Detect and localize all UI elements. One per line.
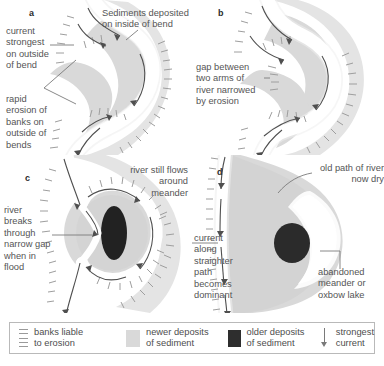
rapid-erosion-label: rapid erosion of banks on outside of ben… bbox=[6, 94, 60, 151]
legend-label-older: older deposits of sediment bbox=[247, 327, 305, 349]
panel-letter-a: a bbox=[29, 8, 34, 18]
river-still-flows-label: river still flows around meander bbox=[96, 165, 188, 199]
current-strongest-label: current strongest on outside of bend bbox=[6, 26, 54, 72]
legend-item-newer-deposits: newer deposits of sediment bbox=[117, 323, 218, 353]
panel-letter-c: c bbox=[25, 173, 30, 183]
abandoned-meander-label: abandoned meander or oxbow lake bbox=[318, 267, 382, 301]
panel-letter-b: b bbox=[218, 8, 224, 18]
dashes-icon bbox=[19, 329, 28, 347]
sediments-deposited-label: Sediments deposited on inside of bend bbox=[102, 8, 192, 31]
legend-item-banks-liable-to-erosion: banks liable to erosion bbox=[10, 323, 117, 353]
legend-label-newer: newer deposits of sediment bbox=[146, 327, 209, 349]
panel-b: b gap between two arms of river narrowed… bbox=[192, 0, 384, 155]
panel-d: d old path of river now dry current alon… bbox=[192, 155, 384, 313]
panel-c: c river still flows around meander river… bbox=[0, 155, 192, 313]
legend: banks liable to erosion newer deposits o… bbox=[9, 322, 375, 354]
down-arrow-icon bbox=[320, 328, 330, 348]
panel-a: a current strongest on outside of bend S… bbox=[0, 0, 192, 155]
panel-letter-d: d bbox=[217, 167, 223, 177]
river-breaks-through-label: river breaks through narrow gap when in … bbox=[4, 205, 60, 273]
legend-label-current: strongest current bbox=[336, 327, 374, 349]
light-grey-square-icon bbox=[126, 330, 140, 347]
current-straighter-path-label: current along straighter path becomes do… bbox=[194, 233, 246, 301]
older-deposit-blob-d bbox=[274, 223, 310, 263]
meander-formation-figure: a current strongest on outside of bend S… bbox=[0, 0, 384, 366]
legend-label-banks: banks liable to erosion bbox=[34, 327, 83, 349]
dark-grey-square-icon bbox=[228, 330, 241, 347]
legend-item-older-deposits: older deposits of sediment bbox=[219, 323, 311, 353]
gap-between-arms-label: gap between two arms of river narrowed b… bbox=[196, 62, 262, 108]
old-path-label: old path of river now dry bbox=[314, 163, 384, 186]
older-deposit-lens-c bbox=[101, 206, 127, 260]
legend-item-strongest-current: strongest current bbox=[311, 323, 374, 353]
